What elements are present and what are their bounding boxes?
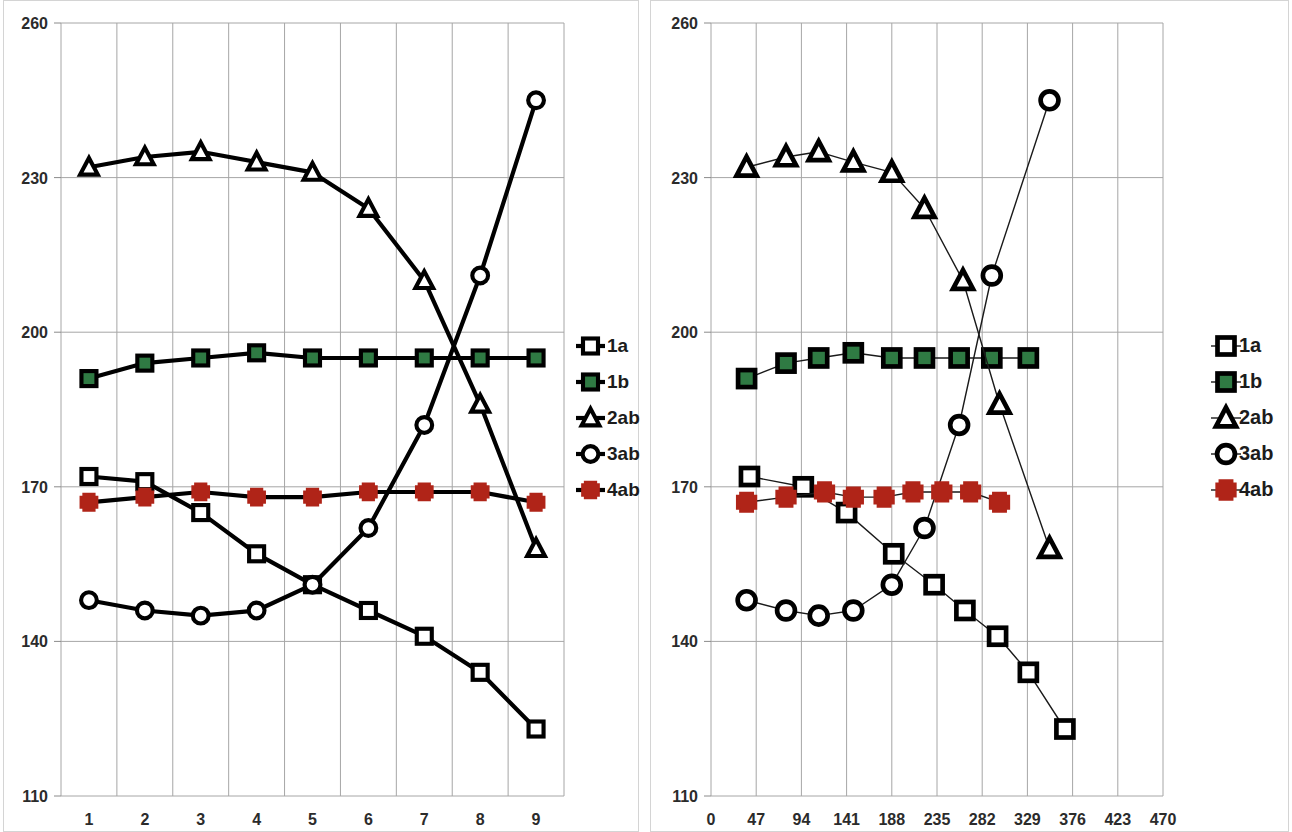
data-point-1a — [529, 722, 544, 737]
data-point-2ab — [304, 163, 322, 180]
data-point-1b — [473, 350, 488, 365]
data-point-4ab — [903, 482, 923, 502]
data-point-2ab — [882, 162, 902, 181]
legend-label-4ab: 4ab — [1239, 478, 1273, 500]
data-point-4ab — [844, 487, 864, 507]
legend-item-1a[interactable]: 1a — [1211, 334, 1262, 356]
data-point-2ab — [471, 395, 489, 412]
legend-label-1a: 1a — [607, 335, 629, 356]
data-point-4ab — [874, 487, 894, 507]
legend-marker-2ab — [1216, 407, 1236, 426]
legend-item-1b[interactable]: 1b — [1211, 370, 1262, 392]
x-tick-label: 2 — [140, 811, 149, 828]
legend-marker-2ab — [582, 409, 600, 426]
data-point-1b — [81, 371, 96, 386]
series-1b — [81, 345, 543, 386]
data-point-1a — [885, 545, 902, 562]
legend-label-3ab: 3ab — [1239, 442, 1273, 464]
chart-left-canvas: 1101401702002302601234567891a1b2ab3ab4ab — [4, 1, 638, 831]
data-point-1a — [81, 469, 96, 484]
data-point-1b — [417, 350, 432, 365]
data-point-4ab — [737, 493, 757, 513]
data-point-1b — [845, 344, 862, 361]
data-point-1b — [810, 349, 827, 366]
data-point-3ab — [810, 607, 828, 625]
legend-label-1b: 1b — [607, 371, 629, 392]
legend-marker-4ab — [1216, 480, 1236, 500]
data-point-1a — [989, 628, 1006, 645]
data-point-1b — [137, 356, 152, 371]
legend-item-3ab[interactable]: 3ab — [576, 443, 640, 464]
data-point-1a — [361, 603, 376, 618]
data-point-3ab — [950, 416, 968, 434]
y-tick-label: 170 — [671, 479, 698, 496]
data-point-1a — [741, 468, 758, 485]
x-tick-label: 1 — [84, 811, 93, 828]
y-axis-left: 110140170200230260 — [21, 15, 61, 805]
chart-pair-root: 1101401702002302601234567891a1b2ab3ab4ab… — [0, 0, 1292, 832]
data-point-1b — [1020, 349, 1037, 366]
legend-label-1b: 1b — [1239, 370, 1262, 392]
x-tick-label: 9 — [532, 811, 541, 828]
y-tick-label: 260 — [671, 15, 698, 32]
data-point-3ab — [777, 602, 795, 620]
legend-item-3ab[interactable]: 3ab — [1211, 442, 1273, 464]
data-point-3ab — [249, 603, 265, 619]
data-point-2ab — [1039, 538, 1059, 557]
data-point-1b — [305, 350, 320, 365]
data-point-2ab — [527, 539, 545, 556]
x-tick-label: 5 — [308, 811, 317, 828]
data-point-3ab — [472, 268, 488, 284]
data-point-2ab — [192, 142, 210, 159]
x-tick-label: 329 — [1014, 811, 1041, 828]
data-point-4ab — [990, 493, 1010, 513]
data-point-4ab — [932, 482, 952, 502]
legend-item-4ab[interactable]: 4ab — [576, 479, 640, 500]
y-tick-label: 200 — [671, 324, 698, 341]
x-tick-label: 235 — [924, 811, 951, 828]
legend-marker-3ab — [583, 446, 599, 462]
legend-marker-1a — [1218, 338, 1235, 355]
gridlines-right — [711, 23, 1163, 796]
data-point-1a — [1056, 721, 1073, 738]
data-point-3ab — [137, 603, 153, 619]
y-tick-label: 140 — [671, 633, 698, 650]
data-point-2ab — [809, 141, 829, 160]
data-point-3ab — [193, 608, 209, 624]
legend-item-4ab[interactable]: 4ab — [1211, 478, 1273, 500]
legend-item-2ab[interactable]: 2ab — [576, 407, 640, 428]
data-point-2ab — [776, 146, 796, 165]
legend-item-2ab[interactable]: 2ab — [1211, 406, 1273, 428]
data-point-3ab — [844, 602, 862, 620]
data-point-1a — [137, 474, 152, 489]
x-tick-label: 0 — [707, 811, 716, 828]
x-tick-label: 188 — [878, 811, 905, 828]
data-point-3ab — [883, 576, 901, 594]
data-point-2ab — [989, 394, 1009, 413]
legend-label-4ab: 4ab — [607, 479, 640, 500]
x-tick-label: 47 — [747, 811, 765, 828]
data-point-2ab — [80, 158, 98, 175]
data-point-4ab — [304, 489, 321, 506]
data-point-3ab — [528, 92, 544, 108]
legend-item-1a[interactable]: 1a — [576, 335, 629, 356]
series-line-1a — [89, 477, 536, 730]
legend-label-2ab: 2ab — [607, 407, 640, 428]
data-point-3ab — [361, 520, 377, 536]
x-tick-label: 3 — [196, 811, 205, 828]
data-point-4ab — [527, 494, 544, 511]
x-axis-left: 123456789 — [84, 811, 540, 828]
data-point-4ab — [248, 489, 265, 506]
chart-panel-left: 1101401702002302601234567891a1b2ab3ab4ab — [3, 0, 639, 832]
x-tick-label: 470 — [1150, 811, 1177, 828]
y-axis-right: 110140170200230260 — [671, 15, 711, 805]
x-tick-label: 282 — [969, 811, 996, 828]
data-point-1a — [417, 629, 432, 644]
legend-item-1b[interactable]: 1b — [576, 371, 629, 392]
y-tick-label: 260 — [21, 15, 48, 32]
x-tick-label: 7 — [420, 811, 429, 828]
legend-marker-1b — [583, 375, 598, 390]
data-point-4ab — [192, 483, 209, 500]
data-point-1b — [916, 349, 933, 366]
chart-right-svg: 1101401702002302600479414118823528232937… — [651, 1, 1290, 832]
